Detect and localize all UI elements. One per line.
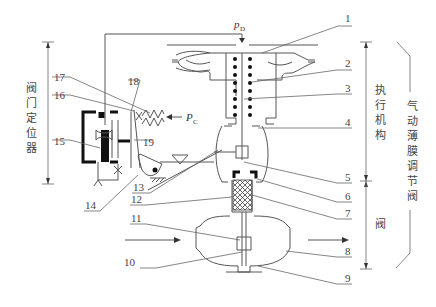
callout-13: 13: [133, 181, 145, 193]
callout-1: 1: [345, 12, 351, 24]
callout-11: 11: [131, 212, 142, 224]
callout-8: 8: [345, 245, 351, 257]
valve-positioner: [83, 112, 130, 186]
svg-text:P: P: [185, 111, 193, 123]
actuator-dimension: [360, 42, 372, 269]
valve-body: [196, 212, 290, 272]
svg-text:D: D: [240, 25, 245, 33]
valve-label: 阀: [371, 218, 387, 233]
callout-4: 4: [345, 116, 351, 128]
callout-leaders: [52, 26, 352, 284]
callout-14: 14: [85, 199, 97, 211]
callout-19: 19: [143, 136, 155, 148]
callout-18: 18: [128, 75, 140, 87]
svg-text:C: C: [193, 118, 198, 126]
positioner-label: 阀门定位器: [22, 82, 38, 157]
callout-17: 17: [54, 71, 66, 83]
diagram-canvas: p D: [0, 0, 436, 307]
callout-7: 7: [345, 207, 351, 219]
callout-16: 16: [54, 89, 66, 101]
positioner-dimension: [42, 42, 54, 184]
callout-6: 6: [345, 190, 351, 202]
callout-15: 15: [54, 135, 66, 147]
packing: [233, 180, 252, 210]
callout-12: 12: [131, 193, 142, 205]
callout-2: 2: [345, 57, 351, 69]
callout-9: 9: [345, 272, 351, 284]
svg-text:p: p: [233, 18, 240, 30]
callout-5: 5: [345, 171, 351, 183]
callout-10: 10: [124, 256, 136, 268]
actuator-label: 执行机构: [371, 84, 387, 144]
control-valve-label: 气动薄膜调节阀: [403, 100, 419, 205]
callout-3: 3: [345, 82, 351, 94]
